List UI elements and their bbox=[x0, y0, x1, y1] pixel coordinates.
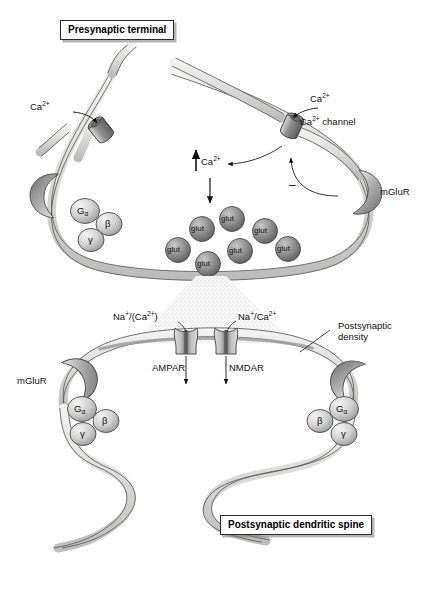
presynaptic-mglur-label: mGluR bbox=[380, 186, 410, 197]
postsynaptic-mglur-left-label: mGluR bbox=[17, 375, 47, 386]
ca-influx-label: Ca2+ bbox=[201, 155, 221, 167]
postsynaptic-galpha-left-label: Gα bbox=[74, 403, 85, 416]
ampar-label: AMPAR bbox=[152, 362, 185, 373]
presynaptic-galpha-label: Gα bbox=[77, 205, 88, 218]
inhibition-minus-sign: – bbox=[289, 178, 296, 192]
presynaptic-terminal-label: Presynaptic terminal bbox=[60, 20, 174, 40]
synapse-diagram bbox=[0, 0, 425, 590]
vesicle-label: glut bbox=[229, 246, 242, 255]
postsynaptic-spine-label: Postsynaptic dendritic spine bbox=[220, 515, 372, 535]
figure-canvas: Presynaptic terminal Postsynaptic dendri… bbox=[0, 0, 425, 590]
postsynaptic-ggamma-left-label: γ bbox=[80, 428, 85, 439]
vesicle-label: glut bbox=[191, 224, 204, 233]
postsynaptic-ggamma-right-label: γ bbox=[341, 428, 346, 439]
nmdar-ion-label: Na+/Ca2+ bbox=[238, 310, 276, 322]
presynaptic-gbeta-label: β bbox=[105, 218, 110, 229]
ca-influx-curve bbox=[228, 146, 282, 164]
vesicle-label: glut bbox=[197, 259, 210, 268]
vesicle-label: glut bbox=[254, 226, 267, 235]
ca-label-left: Ca2+ bbox=[30, 100, 50, 112]
nmdar-receptor-icon bbox=[214, 328, 237, 354]
ampar-ion-label: Na+/(Ca2+) bbox=[113, 310, 158, 322]
postsynaptic-galpha-right-label: Gα bbox=[336, 403, 347, 416]
ca-channel-label: Ca2+ channel bbox=[300, 115, 356, 127]
vesicle-label: glut bbox=[167, 245, 180, 254]
mglur-inhibition-arc bbox=[291, 158, 338, 196]
presynaptic-ggamma-label: γ bbox=[88, 234, 93, 245]
vesicle-label: glut bbox=[221, 214, 234, 223]
ca-label-right: Ca2+ bbox=[310, 92, 330, 104]
nmdar-label: NMDAR bbox=[229, 362, 264, 373]
postsynaptic-gbeta-right-label: β bbox=[317, 415, 322, 426]
vesicle-label: glut bbox=[277, 244, 290, 253]
postsynaptic-gbeta-left-label: β bbox=[102, 415, 107, 426]
postsynaptic-density-label: Postsynaptic density bbox=[338, 320, 392, 342]
